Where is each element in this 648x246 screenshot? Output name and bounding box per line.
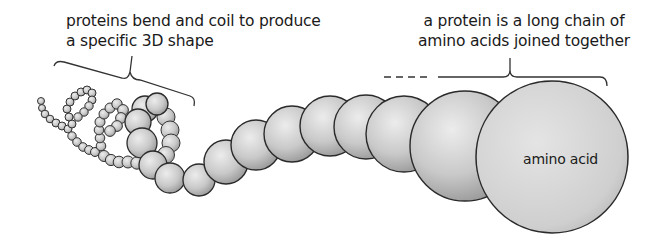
label-folding-line2: a specific 3D shape	[66, 31, 321, 51]
bracket-right	[384, 58, 607, 86]
label-folding: proteins bend and coil to produce a spec…	[66, 11, 321, 51]
label-chain: a protein is a long chain of amino acids…	[408, 11, 640, 51]
chain-spheres	[204, 91, 520, 201]
label-chain-line1: a protein is a long chain of	[408, 11, 640, 31]
label-folding-line1: proteins bend and coil to produce	[66, 11, 321, 31]
label-chain-line2: amino acids joined together	[408, 31, 640, 51]
label-amino-acid: amino acid	[523, 151, 598, 167]
